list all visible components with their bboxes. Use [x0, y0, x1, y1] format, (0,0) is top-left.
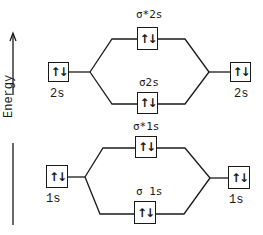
molecular-orbital-sigma-1s: ↑↓	[134, 201, 156, 224]
molecular-orbital-sigma-star-2s: ↑↓	[137, 27, 158, 50]
label-left-1s: 1s	[46, 193, 60, 205]
energy-axis-label: Energy	[2, 75, 16, 118]
label-sigma-1s: σ 1s	[136, 186, 163, 197]
label-sigma-star-2s: σ*2s	[136, 9, 163, 20]
molecular-orbital-sigma-2s: ↑↓	[137, 92, 158, 114]
label-sigma-2s: σ2s	[139, 77, 159, 88]
atomic-orbital-right-2s: ↑↓	[230, 62, 251, 82]
atomic-orbital-left-2s: ↑↓	[48, 62, 69, 82]
label-right-2s: 2s	[234, 88, 248, 100]
mo-diagram-lines	[0, 0, 263, 235]
label-sigma-star-1s: σ*1s	[133, 121, 160, 132]
label-left-2s: 2s	[50, 88, 64, 100]
molecular-orbital-sigma-star-1s: ↑↓	[135, 136, 157, 158]
atomic-orbital-left-1s: ↑↓	[46, 165, 68, 188]
label-right-1s: 1s	[229, 194, 243, 206]
atomic-orbital-right-1s: ↑↓	[228, 166, 250, 189]
